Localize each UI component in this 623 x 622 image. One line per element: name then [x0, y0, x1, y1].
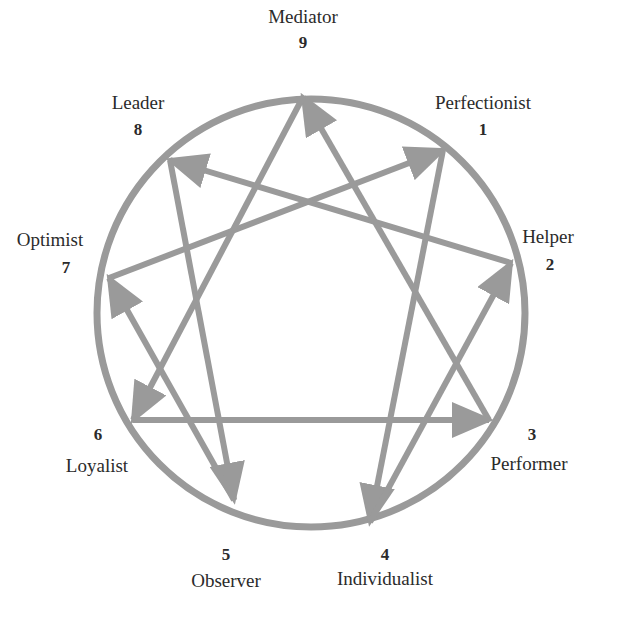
enneagram-diagram: Mediator 9 Perfectionist 1 Leader 8 Opti… — [0, 0, 623, 622]
type-1-label: Perfectionist 1 — [435, 92, 532, 139]
type-8-name: Leader — [112, 92, 165, 113]
type-2-name: Helper — [522, 226, 574, 247]
type-7-name: Optimist — [17, 229, 84, 250]
type-3-label: 3 Performer — [490, 425, 568, 474]
type-2-label: Helper 2 — [522, 226, 574, 274]
type-4-number: 4 — [381, 545, 390, 564]
type-9-name: Mediator — [268, 6, 338, 27]
type-9-label: Mediator 9 — [268, 6, 338, 52]
type-1-number: 1 — [479, 120, 488, 139]
type-3-number: 3 — [528, 425, 537, 444]
arrow-1-to-4 — [370, 150, 443, 522]
type-9-number: 9 — [299, 33, 308, 52]
type-1-name: Perfectionist — [435, 92, 532, 113]
type-6-name: Loyalist — [66, 455, 129, 476]
outer-circle — [97, 99, 525, 527]
type-6-number: 6 — [94, 425, 103, 444]
type-4-label: 4 Individualist — [337, 545, 434, 589]
type-6-label: 6 Loyalist — [66, 425, 129, 476]
type-3-name: Performer — [490, 453, 568, 474]
type-7-number: 7 — [62, 258, 71, 277]
type-5-name: Observer — [191, 570, 261, 591]
arrow-3-to-9 — [303, 97, 489, 420]
arrow-lines — [109, 97, 511, 522]
type-4-name: Individualist — [337, 568, 434, 589]
type-5-number: 5 — [222, 545, 231, 564]
type-8-number: 8 — [134, 120, 143, 139]
type-7-label: Optimist 7 — [17, 229, 84, 277]
type-8-label: Leader 8 — [112, 92, 165, 139]
type-5-label: 5 Observer — [191, 545, 261, 591]
type-2-number: 2 — [546, 255, 555, 274]
